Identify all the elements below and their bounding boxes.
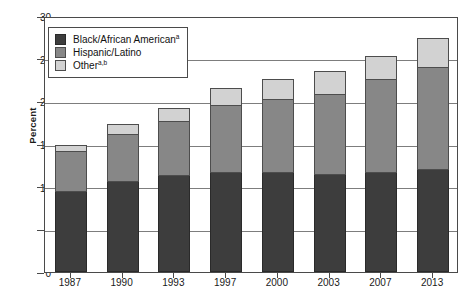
bar-1993	[158, 109, 190, 272]
bar-segment-hispanic-1993	[158, 121, 190, 177]
bar-1997	[210, 89, 242, 272]
bar-segment-black-2000	[262, 172, 294, 272]
bar-segment-other-2000	[262, 79, 294, 100]
legend-label-black: Black/African Americana	[73, 34, 179, 45]
bar-segment-hispanic-1997	[210, 105, 242, 173]
bar-2003	[314, 72, 346, 272]
y-tick-mark	[37, 145, 44, 146]
legend-item-other: Othera,b	[55, 59, 179, 72]
bar-segment-other-1997	[210, 88, 242, 107]
legend-swatch-other-icon	[55, 60, 66, 71]
legend-label-hispanic: Hispanic/Latino	[73, 47, 141, 58]
bar-1990	[107, 125, 139, 272]
bar-segment-black-2007	[365, 172, 397, 272]
legend-label-other: Othera,b	[73, 60, 107, 71]
legend-swatch-hispanic-icon	[55, 47, 66, 58]
bar-2013	[417, 39, 449, 272]
bar-2000	[262, 80, 294, 272]
bar-segment-black-1987	[55, 191, 87, 272]
bar-segment-hispanic-2003	[314, 94, 346, 175]
bar-segment-hispanic-1987	[55, 151, 87, 192]
y-tick-mark	[37, 230, 44, 231]
x-tick-label-2013: 2013	[402, 277, 462, 288]
x-tick-mark	[122, 273, 123, 278]
bar-segment-other-1987	[55, 145, 87, 152]
bar-segment-black-1990	[107, 181, 139, 272]
bar-segment-hispanic-1990	[107, 134, 139, 182]
x-tick-mark	[329, 273, 330, 278]
legend-item-hispanic: Hispanic/Latino	[55, 46, 179, 59]
bar-segment-black-1997	[210, 172, 242, 272]
x-tick-mark	[432, 273, 433, 278]
bar-segment-hispanic-2000	[262, 99, 294, 173]
legend-item-black: Black/African Americana	[55, 33, 179, 46]
x-tick-mark	[225, 273, 226, 278]
y-tick-mark	[37, 187, 44, 188]
bar-2007	[365, 57, 397, 272]
bar-1987	[55, 146, 87, 272]
bar-segment-other-1993	[158, 108, 190, 122]
x-tick-mark	[70, 273, 71, 278]
bar-segment-hispanic-2007	[365, 79, 397, 173]
y-tick-mark	[37, 273, 44, 274]
bar-segment-other-2003	[314, 71, 346, 94]
bar-segment-black-1993	[158, 175, 190, 272]
y-tick-mark	[37, 17, 44, 18]
bar-segment-other-1990	[107, 124, 139, 135]
x-tick-mark	[277, 273, 278, 278]
x-tick-mark	[173, 273, 174, 278]
y-tick-mark	[37, 59, 44, 60]
bar-segment-black-2003	[314, 174, 346, 272]
chart-legend: Black/African Americana Hispanic/Latino …	[48, 27, 188, 78]
bar-segment-black-2013	[417, 169, 449, 272]
bar-segment-hispanic-2013	[417, 67, 449, 170]
chart-figure: Percent 051015202530 1987199019931997200…	[0, 0, 470, 295]
bar-segment-other-2013	[417, 38, 449, 68]
bar-segment-other-2007	[365, 56, 397, 80]
x-tick-mark	[380, 273, 381, 278]
y-tick-mark	[37, 102, 44, 103]
legend-swatch-black-icon	[55, 34, 66, 45]
